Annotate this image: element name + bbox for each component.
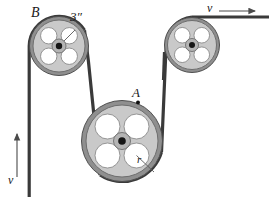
pulley-b-hub-center bbox=[56, 43, 62, 49]
label-velocity-left: v bbox=[8, 174, 13, 186]
belt-right-stub bbox=[164, 52, 165, 80]
label-diameter-b: 3″ bbox=[70, 10, 82, 23]
pulley-b[interactable] bbox=[30, 17, 89, 76]
pulley-a-hub-center bbox=[118, 137, 126, 145]
label-radius-r: r bbox=[137, 154, 141, 165]
pulley-right[interactable] bbox=[165, 18, 220, 73]
pulley-a[interactable] bbox=[82, 101, 163, 182]
point-a-marker bbox=[136, 101, 140, 105]
pulley-right-hub-center bbox=[189, 42, 195, 48]
label-velocity-top: v bbox=[207, 2, 212, 14]
label-point-a: A bbox=[132, 86, 140, 99]
label-pulley-b: B bbox=[31, 6, 40, 20]
figure-canvas: B 3″ A r v v bbox=[0, 0, 269, 197]
